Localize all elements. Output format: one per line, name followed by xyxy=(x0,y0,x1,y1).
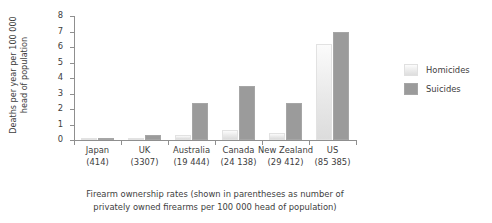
y-axis-tick-label: 8 xyxy=(58,10,63,20)
plot-area: 012345678 xyxy=(74,17,356,141)
y-axis-tick: 7 xyxy=(70,32,75,33)
category-ownership-count: (85 385) xyxy=(297,157,368,169)
y-axis-tick-label: 2 xyxy=(58,103,63,113)
legend-item[interactable]: Suicides xyxy=(404,79,470,98)
y-axis-tick: 5 xyxy=(70,63,75,64)
bar-homicides xyxy=(269,133,285,140)
y-axis-tick: 2 xyxy=(70,109,75,110)
y-axis-title-line-2: head of population xyxy=(19,16,30,133)
bar-suicides xyxy=(333,32,349,141)
bar-suicides xyxy=(286,103,302,140)
legend-label: Homicides xyxy=(426,65,470,75)
bar-group xyxy=(128,17,161,140)
y-axis-tick: 1 xyxy=(70,125,75,126)
x-axis-category-labels: Japan(414)UK(3307)Australia(19 444)Canad… xyxy=(74,145,356,177)
y-axis-title: Deaths per year per 100 000 head of popu… xyxy=(2,8,36,142)
bar-group xyxy=(175,17,208,140)
caption-line-1: Firearm ownership rates (shown in parent… xyxy=(40,188,390,201)
bar-homicides xyxy=(316,44,332,140)
y-axis-tick-label: 6 xyxy=(58,41,63,51)
firearm-deaths-bar-chart: Deaths per year per 100 000 head of popu… xyxy=(0,0,492,223)
y-axis-tick: 6 xyxy=(70,47,75,48)
chart-legend: HomicidesSuicides xyxy=(404,60,470,98)
bar-group xyxy=(316,17,349,140)
bar-group xyxy=(81,17,114,140)
bar-homicides xyxy=(222,130,238,140)
y-axis-tick: 3 xyxy=(70,94,75,95)
y-axis-title-line-1: Deaths per year per 100 000 xyxy=(8,16,19,133)
y-axis-line xyxy=(74,17,75,141)
bar-homicides xyxy=(81,138,97,140)
y-axis-tick: 4 xyxy=(70,78,75,79)
y-axis-tick-label: 3 xyxy=(58,88,63,98)
bar-homicides xyxy=(128,138,144,140)
bar-suicides xyxy=(98,138,114,140)
x-axis-category: US(85 385) xyxy=(297,145,368,168)
bar-suicides xyxy=(239,86,255,140)
legend-swatch-suicides xyxy=(404,83,418,95)
bar-suicides xyxy=(192,103,208,140)
y-axis-tick-label: 5 xyxy=(58,57,63,67)
legend-label: Suicides xyxy=(426,84,461,94)
category-name: US xyxy=(297,145,368,157)
caption-line-2: privately owned firearms per 100 000 hea… xyxy=(40,201,390,214)
bar-group xyxy=(222,17,255,140)
y-axis-tick: 8 xyxy=(70,16,75,17)
y-axis-tick-label: 4 xyxy=(58,72,63,82)
legend-item[interactable]: Homicides xyxy=(404,60,470,79)
bar-group xyxy=(269,17,302,140)
bar-homicides xyxy=(175,135,191,140)
y-axis-tick-label: 0 xyxy=(58,134,63,144)
legend-swatch-homicides xyxy=(404,64,418,76)
y-axis-tick-label: 1 xyxy=(58,119,63,129)
chart-caption: Firearm ownership rates (shown in parent… xyxy=(40,188,390,214)
y-axis-tick-label: 7 xyxy=(58,26,63,36)
bar-suicides xyxy=(145,135,161,140)
